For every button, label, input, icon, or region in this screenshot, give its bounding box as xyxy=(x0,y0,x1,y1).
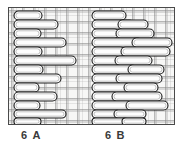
stitch-drawing-layer xyxy=(8,7,175,125)
stitch-6a-7 xyxy=(14,74,61,83)
stitch-6b-20 xyxy=(126,101,168,110)
stitch-6b-12 xyxy=(128,65,164,74)
stitch-6a-9 xyxy=(14,92,57,101)
stitch-group-6b xyxy=(92,11,172,125)
stitch-6b-2 xyxy=(118,20,148,29)
stitch-6b-14 xyxy=(116,74,162,83)
fabric-panel xyxy=(8,7,175,125)
stitch-6b-4 xyxy=(116,29,154,38)
stitch-figure: 6 А 6 В xyxy=(0,0,180,145)
stitch-6a-1 xyxy=(14,20,58,29)
stitch-6b-8 xyxy=(121,47,170,56)
stitch-group-6a xyxy=(14,11,76,125)
stitch-6b-3 xyxy=(92,29,119,38)
stitch-6b-6 xyxy=(132,38,172,47)
stitch-6a-0 xyxy=(14,11,42,20)
caption-6a: 6 А xyxy=(21,128,42,142)
stitch-6a-8 xyxy=(14,83,39,92)
stitch-6b-24 xyxy=(122,118,146,125)
caption-row: 6 А 6 В xyxy=(0,126,180,145)
stitch-6b-22 xyxy=(114,110,146,118)
stitch-6a-2 xyxy=(14,29,41,38)
stitch-6a-12 xyxy=(14,118,41,125)
stitch-6b-16 xyxy=(124,83,158,92)
stitch-6a-4 xyxy=(14,47,42,56)
stitch-6a-6 xyxy=(14,65,43,74)
stitch-6a-11 xyxy=(14,110,66,118)
stitch-6b-0 xyxy=(92,11,126,20)
caption-6b: 6 В xyxy=(105,128,126,142)
stitch-6b-7 xyxy=(92,47,125,56)
stitch-6b-18 xyxy=(112,92,162,101)
stitch-6a-3 xyxy=(14,38,66,47)
stitch-6b-10 xyxy=(115,56,152,65)
stitch-6a-5 xyxy=(14,56,76,65)
stitch-6a-10 xyxy=(14,101,40,110)
